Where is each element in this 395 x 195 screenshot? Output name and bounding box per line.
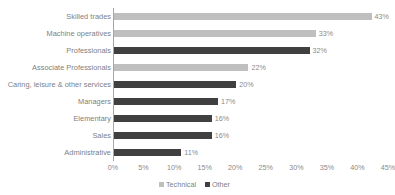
- bar-value-label: 16%: [215, 114, 229, 123]
- category-label: Sales: [0, 131, 111, 140]
- x-axis-tick: 0%: [108, 163, 118, 172]
- bar: [114, 64, 248, 71]
- bar-row: Caring, leisure & other services20%: [0, 76, 389, 93]
- plot-area: Skilled trades43%Machine operatives33%Pr…: [0, 0, 389, 160]
- bar-value-label: 43%: [375, 12, 389, 21]
- category-label: Caring, leisure & other services: [0, 80, 111, 89]
- bar: [114, 98, 218, 105]
- bar-value-label: 17%: [221, 97, 235, 106]
- bar-row: Administrative11%: [0, 144, 389, 161]
- category-label: Machine operatives: [0, 29, 111, 38]
- x-axis-tick: 20%: [228, 163, 242, 172]
- x-axis-tick: 15%: [197, 163, 211, 172]
- bar-value-label: 20%: [239, 80, 253, 89]
- category-label: Associate Professionals: [0, 63, 111, 72]
- bar-value-label: 16%: [215, 131, 229, 140]
- bar-track: 43%: [114, 8, 389, 25]
- category-label: Elementary: [0, 114, 111, 123]
- bar-track: 11%: [114, 144, 389, 161]
- legend-item[interactable]: Technical: [159, 180, 196, 189]
- bar-row: Professionals32%: [0, 42, 389, 59]
- bar: [114, 132, 212, 139]
- x-axis-tick: 25%: [259, 163, 273, 172]
- y-axis-line: [113, 8, 114, 161]
- bar-track: 16%: [114, 127, 389, 144]
- bar: [114, 47, 310, 54]
- bar-row: Skilled trades43%: [0, 8, 389, 25]
- bar: [114, 13, 372, 20]
- x-axis-tick: 35%: [320, 163, 334, 172]
- bar: [114, 115, 212, 122]
- bar-track: 16%: [114, 110, 389, 127]
- x-axis-tick-labels: 0%5%10%15%20%25%30%35%40%45%: [0, 163, 389, 175]
- bar-track: 20%: [114, 76, 389, 93]
- bar-value-label: 32%: [313, 46, 327, 55]
- bar-row: Elementary16%: [0, 110, 389, 127]
- x-axis-tick: 5%: [138, 163, 148, 172]
- bar: [114, 81, 236, 88]
- category-label: Administrative: [0, 148, 111, 157]
- bar-rows: Skilled trades43%Machine operatives33%Pr…: [0, 8, 389, 161]
- bar-row: Machine operatives33%: [0, 25, 389, 42]
- bar-row: Sales16%: [0, 127, 389, 144]
- chart-legend: TechnicalOther: [0, 180, 389, 189]
- x-axis-tick: 30%: [289, 163, 303, 172]
- bar-value-label: 11%: [184, 148, 198, 157]
- bar-row: Managers17%: [0, 93, 389, 110]
- x-axis-tick: 40%: [350, 163, 364, 172]
- bar-value-label: 22%: [251, 63, 265, 72]
- bar-track: 33%: [114, 25, 389, 42]
- bar-value-label: 33%: [319, 29, 333, 38]
- category-label: Managers: [0, 97, 111, 106]
- legend-item[interactable]: Other: [205, 180, 230, 189]
- x-axis-tick: 45%: [381, 163, 395, 172]
- bar-track: 32%: [114, 42, 389, 59]
- legend-label: Other: [212, 180, 230, 189]
- bar-track: 22%: [114, 59, 389, 76]
- bar: [114, 30, 316, 37]
- category-label: Skilled trades: [0, 12, 111, 21]
- legend-swatch-icon: [159, 182, 164, 187]
- bar-row: Associate Professionals22%: [0, 59, 389, 76]
- legend-label: Technical: [166, 180, 196, 189]
- bar-track: 17%: [114, 93, 389, 110]
- legend-swatch-icon: [205, 182, 210, 187]
- bar: [114, 149, 181, 156]
- category-label: Professionals: [0, 46, 111, 55]
- x-axis-tick: 10%: [167, 163, 181, 172]
